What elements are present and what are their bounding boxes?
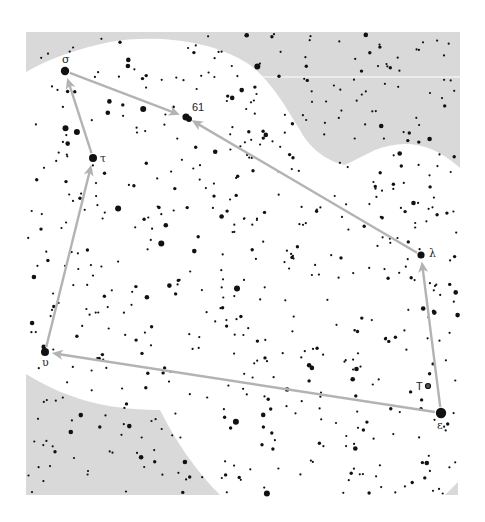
background-star	[224, 473, 227, 476]
background-star	[264, 491, 270, 497]
background-star	[168, 381, 170, 383]
background-star	[433, 289, 435, 291]
background-star	[247, 130, 250, 133]
background-star	[415, 117, 417, 119]
background-star	[201, 289, 203, 291]
background-star	[72, 200, 74, 202]
background-star	[35, 178, 38, 181]
star-marker	[436, 408, 446, 418]
background-star	[330, 254, 332, 256]
background-star	[261, 413, 266, 418]
background-star	[372, 181, 374, 183]
background-star	[428, 372, 431, 375]
background-star	[250, 101, 252, 103]
star-marker	[89, 154, 97, 162]
background-star	[27, 237, 29, 239]
background-star	[445, 429, 447, 431]
background-star	[123, 312, 125, 314]
background-star	[144, 386, 147, 389]
background-star	[271, 140, 273, 142]
background-star	[177, 472, 179, 474]
background-star	[177, 283, 179, 285]
background-star	[303, 78, 305, 80]
background-star	[383, 268, 385, 270]
background-star	[32, 275, 37, 280]
background-star	[38, 367, 40, 369]
background-star	[279, 146, 281, 148]
background-star	[335, 324, 337, 326]
background-star	[55, 400, 57, 402]
background-star	[91, 119, 93, 121]
background-star	[122, 115, 124, 117]
background-star	[134, 285, 137, 288]
background-star	[250, 139, 252, 141]
star-label: λ	[429, 247, 436, 260]
background-star	[78, 197, 81, 200]
background-star	[301, 206, 303, 208]
background-star	[262, 136, 265, 139]
background-star	[318, 274, 320, 276]
background-star	[403, 210, 406, 213]
background-star	[199, 179, 201, 181]
background-star	[51, 85, 53, 87]
star-marker-companion	[186, 116, 192, 122]
background-star	[319, 407, 321, 409]
background-star	[242, 334, 244, 336]
background-star	[194, 146, 197, 149]
background-star	[208, 71, 210, 73]
background-star	[65, 134, 67, 136]
background-star	[51, 309, 53, 311]
background-star	[386, 65, 388, 67]
background-star	[283, 261, 285, 263]
background-star	[233, 224, 235, 226]
background-star	[378, 378, 380, 380]
background-star	[201, 476, 203, 478]
background-star	[354, 137, 356, 139]
background-star	[285, 405, 287, 407]
background-star	[35, 123, 37, 125]
background-star	[42, 444, 44, 446]
background-star	[315, 347, 318, 350]
background-star	[229, 426, 232, 429]
background-star	[304, 350, 306, 352]
background-star	[382, 236, 384, 238]
background-star	[425, 461, 430, 466]
background-star	[403, 182, 405, 184]
background-star	[354, 367, 359, 372]
background-star	[380, 486, 382, 488]
background-star	[422, 41, 424, 43]
background-star	[109, 450, 111, 452]
background-star	[89, 314, 91, 316]
background-star	[291, 168, 293, 170]
background-star	[392, 188, 394, 190]
background-star	[428, 174, 430, 176]
background-star	[97, 311, 99, 313]
background-star	[246, 393, 248, 395]
background-star	[147, 216, 149, 218]
background-star	[307, 379, 310, 382]
background-star	[75, 335, 78, 338]
background-star	[443, 79, 445, 81]
background-star	[41, 213, 43, 215]
background-star	[126, 64, 131, 69]
background-star	[425, 220, 427, 222]
background-star	[290, 253, 292, 255]
background-star	[356, 100, 358, 102]
background-star	[423, 476, 426, 479]
background-star	[143, 466, 145, 468]
background-star	[130, 304, 132, 306]
background-star	[309, 39, 311, 41]
background-star	[264, 339, 266, 341]
background-star	[252, 376, 254, 378]
background-star	[416, 48, 418, 50]
background-star	[436, 40, 438, 42]
background-star	[338, 40, 340, 42]
background-star	[393, 154, 395, 156]
background-star	[243, 373, 245, 375]
background-star	[433, 419, 435, 421]
background-star	[77, 252, 79, 254]
background-star	[256, 360, 258, 362]
background-star	[315, 210, 318, 213]
background-star	[280, 51, 282, 53]
background-star	[244, 141, 246, 143]
